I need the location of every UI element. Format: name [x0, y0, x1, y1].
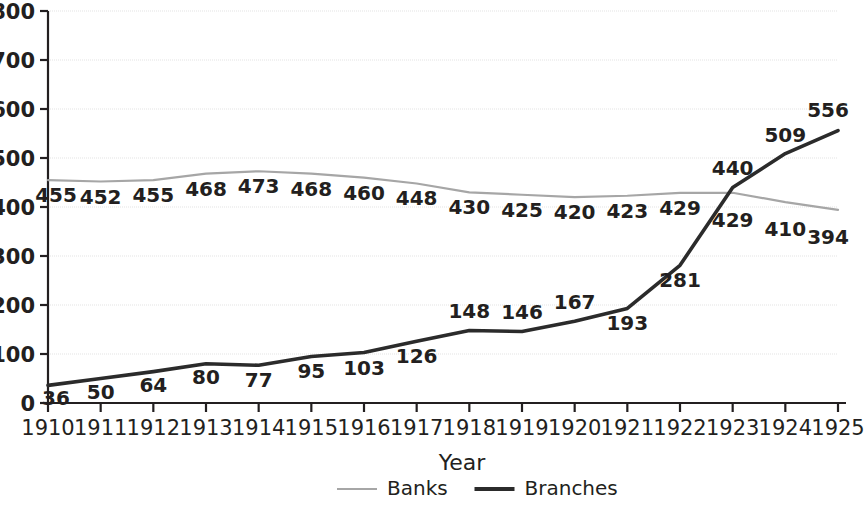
data-label-banks: 452 — [80, 185, 122, 209]
y-tick-label: 500 — [0, 147, 35, 171]
data-label-branches: 193 — [606, 311, 648, 335]
data-label-banks: 423 — [606, 199, 648, 223]
y-tick-label: 600 — [0, 98, 35, 122]
x-tick-label: 1918 — [443, 416, 496, 440]
data-label-banks: 455 — [132, 183, 174, 207]
y-tick-label: 100 — [0, 343, 35, 367]
x-tick-label: 1910 — [21, 416, 74, 440]
x-axis-title: Year — [438, 450, 487, 475]
data-label-branches: 509 — [764, 123, 806, 147]
data-label-banks: 394 — [807, 225, 849, 249]
chart-legend: BanksBranches — [337, 476, 618, 500]
data-label-branches: 167 — [554, 290, 596, 314]
data-label-banks: 410 — [764, 217, 806, 241]
y-tick-labels: 0100200300400500600700800 — [0, 0, 35, 416]
x-tick-label: 1916 — [337, 416, 390, 440]
x-tick-label: 1917 — [390, 416, 443, 440]
data-label-banks: 468 — [185, 177, 227, 201]
x-tick-label: 1913 — [179, 416, 232, 440]
data-label-branches: 148 — [448, 299, 490, 323]
data-label-banks: 429 — [659, 196, 701, 220]
data-label-banks: 455 — [35, 183, 77, 207]
line-chart: 0100200300400500600700800 19101911191219… — [0, 0, 864, 510]
y-tick-label: 800 — [0, 0, 35, 24]
x-tick-label: 1919 — [495, 416, 548, 440]
x-tick-label: 1911 — [74, 416, 127, 440]
y-tick-label: 700 — [0, 49, 35, 73]
data-label-banks: 473 — [238, 174, 280, 198]
chart-canvas: 0100200300400500600700800 19101911191219… — [0, 0, 864, 510]
x-tick-label: 1915 — [285, 416, 338, 440]
data-label-branches: 440 — [712, 156, 754, 180]
x-tick-label: 1925 — [811, 416, 864, 440]
data-label-banks: 420 — [554, 200, 596, 224]
data-label-banks: 430 — [448, 195, 490, 219]
x-tick-label: 1914 — [232, 416, 285, 440]
data-label-branches: 77 — [245, 368, 273, 392]
x-tick-label: 1924 — [759, 416, 812, 440]
y-tick-label: 0 — [20, 392, 35, 416]
data-label-branches: 80 — [192, 365, 220, 389]
data-label-branches: 126 — [396, 344, 438, 368]
x-tick-label: 1923 — [706, 416, 759, 440]
x-tick-label: 1920 — [548, 416, 601, 440]
data-point-labels: 4554524554684734684604484304254204234294… — [35, 98, 849, 411]
data-label-banks: 425 — [501, 198, 543, 222]
y-tick-label: 400 — [0, 196, 35, 220]
y-tick-label: 200 — [0, 294, 35, 318]
data-label-branches: 103 — [343, 356, 385, 380]
data-label-branches: 281 — [659, 268, 701, 292]
data-label-branches: 556 — [807, 98, 849, 122]
x-tick-label: 1922 — [653, 416, 706, 440]
y-tick-label: 300 — [0, 245, 35, 269]
data-label-branches: 95 — [297, 359, 325, 383]
x-tick-label: 1912 — [127, 416, 180, 440]
data-label-banks: 468 — [290, 177, 332, 201]
legend-label-branches: Branches — [525, 476, 618, 500]
x-tick-labels: 1910191119121913191419151916191719181919… — [21, 416, 864, 440]
data-label-banks: 460 — [343, 181, 385, 205]
data-label-branches: 50 — [87, 380, 115, 404]
data-label-branches: 146 — [501, 300, 543, 324]
data-label-branches: 64 — [139, 373, 167, 397]
x-tick-label: 1921 — [601, 416, 654, 440]
legend-label-banks: Banks — [387, 476, 448, 500]
x-axis — [48, 403, 846, 412]
data-label-banks: 429 — [712, 208, 754, 232]
data-label-banks: 448 — [396, 186, 438, 210]
data-label-branches: 36 — [42, 386, 70, 410]
